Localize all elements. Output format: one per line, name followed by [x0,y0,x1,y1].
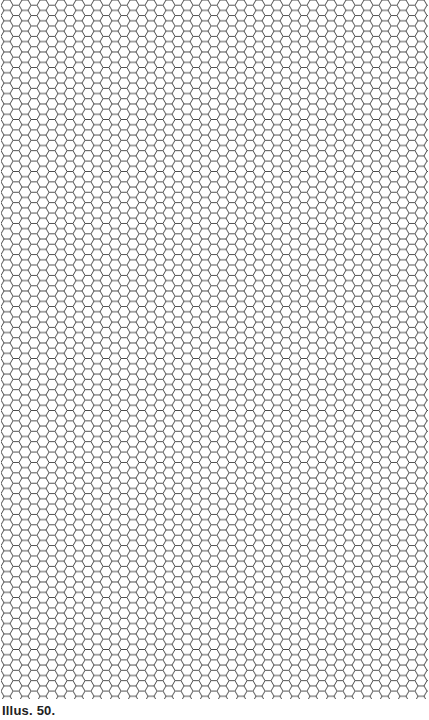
figure-caption: Illus. 50. [2,703,55,718]
hexagon-grid-figure [1,0,428,699]
hexagon-grid-pattern-icon [1,0,428,699]
